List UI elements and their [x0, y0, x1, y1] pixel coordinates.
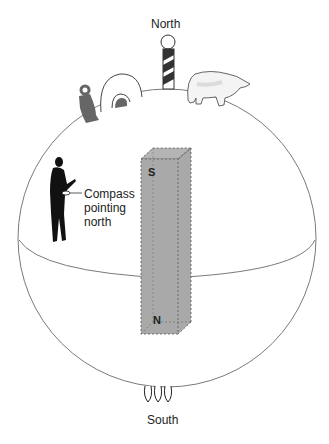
penguins	[144, 386, 171, 402]
person-with-compass	[50, 157, 76, 242]
compass-label-line1: Compass	[84, 187, 135, 201]
compass-label: Compass pointing north	[84, 187, 135, 229]
igloo	[96, 74, 142, 112]
magnet-south-pole-label: S	[148, 166, 155, 178]
eskimo-figure	[79, 86, 99, 123]
magnet-north-pole-label: N	[153, 314, 161, 326]
north-pole-marker	[161, 35, 175, 89]
earth-magnet-diagram: North South Compass pointing north S N	[0, 0, 329, 444]
compass-icon	[62, 191, 70, 195]
polar-bear	[188, 72, 250, 107]
north-label: North	[151, 17, 180, 31]
compass-label-line3: north	[84, 215, 135, 229]
compass-label-line2: pointing	[84, 201, 135, 215]
diagram-canvas	[0, 0, 329, 444]
south-label: South	[147, 413, 178, 427]
